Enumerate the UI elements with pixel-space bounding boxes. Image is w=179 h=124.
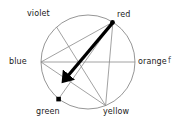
chord-red-yellow bbox=[106, 22, 113, 106]
vertex-label-violet: violet bbox=[27, 9, 50, 18]
color-wheel-figure: violet red blue orange green yellow f bbox=[0, 0, 179, 124]
vertex-label-orange: orange bbox=[138, 57, 167, 66]
vertex-label-blue: blue bbox=[9, 57, 27, 66]
vertex-label-red: red bbox=[117, 10, 130, 19]
vertex-label-green: green bbox=[36, 107, 60, 116]
green-point-marker bbox=[56, 97, 61, 102]
chord-blue-red bbox=[41, 22, 113, 62]
vertex-label-yellow: yellow bbox=[103, 107, 129, 116]
complement-arrow bbox=[67, 23, 113, 77]
cropped-edge-glyph: f bbox=[168, 56, 174, 67]
red-point-marker bbox=[110, 20, 115, 25]
chord-group bbox=[41, 22, 135, 106]
